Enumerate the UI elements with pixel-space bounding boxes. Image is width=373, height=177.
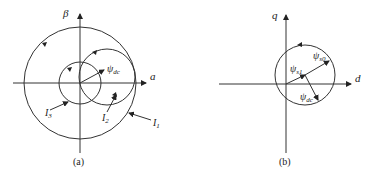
psi-s0-vector [305,61,329,75]
psi-dc-label-b: ψdc [300,91,314,104]
i2-label: I2 [101,112,109,125]
psi-s1-label: ψs1 [290,63,302,76]
pointer-i1 [129,113,151,120]
trajectory-circle-i2 [79,49,135,105]
d-axis-label: d [355,72,361,84]
direction-arrow-i2-top [92,50,97,55]
panel-a: β a ψdc I1 I2 I3 (a) [13,7,160,168]
i1-label: I1 [152,117,160,130]
direction-arrow-i1 [42,42,47,47]
direction-arrow-i2-bottom [112,92,117,97]
i3-label: I3 [44,107,52,120]
psi-dc-label: ψdc [107,63,121,76]
caption-b: (b) [279,156,291,168]
pointer-i3 [50,102,68,110]
alpha-axis-label: a [150,70,156,82]
caption-a: (a) [73,156,84,168]
q-axis-label: q [272,9,278,21]
direction-arrow-i3 [67,67,72,72]
beta-axis-label: β [62,7,69,19]
psi-s1-vector [286,75,305,84]
panel-b: q d ψs1 ψs0 ψdc (b) [219,9,361,168]
figure-canvas: β a ψdc I1 I2 I3 (a) q d ψs1 ψs0 ψdc (b) [0,0,373,177]
